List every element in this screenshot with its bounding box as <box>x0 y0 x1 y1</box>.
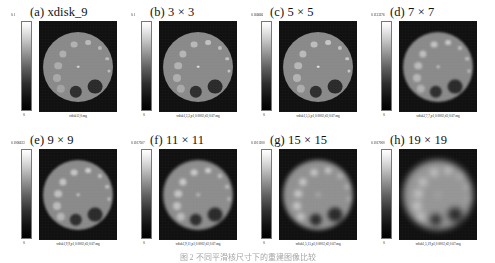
phantom-bright-dot <box>85 168 91 174</box>
phantom-disk <box>283 160 353 230</box>
phantom-disk <box>403 160 473 230</box>
phantom-disk <box>163 32 233 102</box>
phantom-disk <box>283 32 353 102</box>
phantom-bright-dot <box>413 202 421 210</box>
phantom-disk <box>403 32 473 102</box>
phantom-bright-dot <box>419 50 426 57</box>
phantom-bright-dot <box>293 202 301 210</box>
panel-filename-g: xdisk1,5,15,p1,0.0002,d2,0.67.mg <box>279 242 357 246</box>
phantom-bright-dot <box>218 173 222 177</box>
colorbar-gradient-b <box>141 21 152 111</box>
phantom-image-g <box>279 149 357 240</box>
panel-filename-d: xdisk2,7,7,p1,0.0002,d2,0.67.mg <box>399 114 477 118</box>
phantom-bright-dot <box>293 74 301 82</box>
phantom-bright-dot <box>458 173 462 177</box>
colorbar-h: 0.10170000 <box>381 149 392 239</box>
colorbar-gradient-e <box>21 149 32 239</box>
phantom-bright-dot <box>225 57 229 61</box>
phantom-bright-dot <box>419 178 426 185</box>
phantom-bright-dot <box>108 197 111 200</box>
phantom-bright-dot <box>348 197 351 200</box>
colorbar-min-label-d: 0 <box>383 113 385 117</box>
panel-title-g: (g) 15 × 15 <box>270 133 327 148</box>
phantom-image-h <box>399 149 477 240</box>
phantom-dark-dot <box>310 85 322 97</box>
colorbar-min-label-f: 0 <box>143 241 145 245</box>
phantom-bright-dot <box>465 185 469 189</box>
phantom-bright-dot <box>338 45 342 49</box>
phantom-bright-dot <box>57 212 65 220</box>
phantom-bright-dot <box>225 185 229 189</box>
panel-g: (g) 15 × 150.11012000xdisk1,5,15,p1,0.00… <box>248 132 368 257</box>
panel-filename-f: xdisk1,9,11,p1,0.0002,d2,0.67.mg <box>159 242 237 246</box>
phantom-disk <box>163 160 233 230</box>
phantom-bright-dot <box>458 45 462 49</box>
phantom-dark-dot <box>310 213 322 225</box>
colorbar-max-label-a: 0.1 <box>11 13 15 17</box>
phantom-dark-dot <box>430 85 442 97</box>
colorbar-b: 0.10 <box>141 21 152 111</box>
panel-title-a: (a) xdisk_9 <box>30 5 88 20</box>
phantom-bright-dot <box>71 41 78 48</box>
colorbar-gradient-d <box>381 21 392 111</box>
colorbar-max-label-d: 0.1133276 <box>371 13 385 17</box>
phantom-bright-dot <box>317 65 320 68</box>
phantom-dark-dot <box>328 207 343 222</box>
phantom-dark-dot <box>70 213 82 225</box>
phantom-bright-dot <box>294 190 302 198</box>
phantom-bright-dot <box>54 190 62 198</box>
colorbar-e: 0.10066230 <box>21 149 32 239</box>
colorbar-max-label-f: 0.1107507 <box>131 141 145 145</box>
phantom-bright-dot <box>297 84 305 92</box>
colorbar-min-label-e: 0 <box>23 241 25 245</box>
phantom-bright-dot <box>177 212 185 220</box>
phantom-bright-dot <box>413 74 421 82</box>
phantom-bright-dot <box>205 40 211 46</box>
colorbar-c: 0.1666660 <box>261 21 272 111</box>
phantom-bright-dot <box>431 41 438 48</box>
panel-title-h: (h) 19 × 19 <box>390 133 447 148</box>
phantom-image-a <box>39 21 117 112</box>
phantom-dark-dot <box>190 213 202 225</box>
phantom-bright-dot <box>98 173 102 177</box>
phantom-disk <box>43 32 113 102</box>
phantom-dark-dot <box>448 79 463 94</box>
phantom-bright-dot <box>53 74 61 82</box>
colorbar-gradient-f <box>141 149 152 239</box>
panel-title-b: (b) 3 × 3 <box>150 5 194 20</box>
phantom-dark-dot <box>190 85 202 97</box>
phantom-bright-dot <box>445 168 451 174</box>
phantom-dark-dot <box>208 207 223 222</box>
phantom-bright-dot <box>197 65 200 68</box>
phantom-bright-dot <box>197 193 200 196</box>
panel-filename-c: xdisk1,5,5,p1,0.0002,d2,0.67.mg <box>279 114 357 118</box>
phantom-bright-dot <box>173 202 181 210</box>
phantom-bright-dot <box>173 74 181 82</box>
phantom-bright-dot <box>445 40 451 46</box>
phantom-bright-dot <box>299 50 306 57</box>
colorbar-gradient-a <box>21 21 32 111</box>
colorbar-gradient-c <box>261 21 272 111</box>
phantom-bright-dot <box>191 169 198 176</box>
phantom-bright-dot <box>414 62 422 70</box>
phantom-bright-dot <box>59 178 66 185</box>
phantom-bright-dot <box>179 50 186 57</box>
panel-e: (e) 9 × 90.10066230xdisk1,9,9,p1,0.0002,… <box>8 132 128 257</box>
panel-filename-h: xdisk1,5,19,p1,0.0002,d2,0.67.mg <box>399 242 477 246</box>
phantom-bright-dot <box>348 69 351 72</box>
colorbar-min-label-h: 0 <box>383 241 385 245</box>
phantom-bright-dot <box>414 190 422 198</box>
phantom-bright-dot <box>177 84 185 92</box>
phantom-bright-dot <box>311 41 318 48</box>
phantom-image-c <box>279 21 357 112</box>
colorbar-min-label-b: 0 <box>143 113 145 117</box>
phantom-disk <box>43 160 113 230</box>
colorbar-f: 0.11075070 <box>141 149 152 239</box>
phantom-image-f <box>159 149 237 240</box>
panel-c: (c) 5 × 50.1666660xdisk1,5,5,p1,0.0002,d… <box>248 4 368 129</box>
phantom-bright-dot <box>105 185 109 189</box>
colorbar-d: 0.11332760 <box>381 21 392 111</box>
phantom-bright-dot <box>77 65 80 68</box>
phantom-dark-dot <box>208 79 223 94</box>
phantom-bright-dot <box>468 69 471 72</box>
